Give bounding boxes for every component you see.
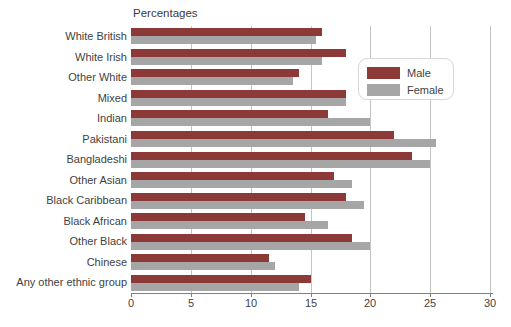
category-label: Pakistani — [0, 129, 127, 150]
bar-female-9 — [131, 221, 328, 229]
tick-label: 15 — [296, 297, 326, 309]
bar-female-1 — [131, 57, 322, 65]
tick-label: 20 — [355, 297, 385, 309]
bar-female-2 — [131, 77, 293, 85]
legend-item-male: Male — [367, 65, 453, 80]
bar-male-9 — [131, 213, 305, 221]
x-axis-line — [131, 293, 493, 294]
legend-item-female: Female — [367, 82, 453, 97]
category-label: Bangladeshi — [0, 149, 127, 170]
category-label: Other White — [0, 67, 127, 88]
bar-female-6 — [131, 160, 430, 168]
bar-chart: Percentages White BritishWhite IrishOthe… — [0, 0, 511, 327]
bar-male-3 — [131, 90, 346, 98]
tick-label: 30 — [475, 297, 505, 309]
bar-male-7 — [131, 172, 334, 180]
legend-label-female: Female — [407, 84, 444, 96]
male-series-swatch — [367, 67, 400, 79]
bar-male-11 — [131, 254, 269, 262]
category-label: Any other ethnic group — [0, 272, 127, 293]
bar-male-8 — [131, 193, 346, 201]
category-label: Other Black — [0, 231, 127, 252]
bar-male-5 — [131, 131, 394, 139]
legend-label-male: Male — [407, 67, 431, 79]
legend: Male Female — [358, 58, 454, 100]
gridline — [490, 26, 491, 293]
bar-female-12 — [131, 283, 299, 291]
bar-female-7 — [131, 180, 352, 188]
bar-male-6 — [131, 152, 412, 160]
tick-label: 5 — [176, 297, 206, 309]
bar-female-5 — [131, 139, 436, 147]
bar-female-8 — [131, 201, 364, 209]
category-label: White Irish — [0, 47, 127, 68]
bar-female-11 — [131, 262, 275, 270]
bar-male-1 — [131, 49, 346, 57]
tick-label: 25 — [415, 297, 445, 309]
category-label: Indian — [0, 108, 127, 129]
bar-female-4 — [131, 118, 370, 126]
bar-male-12 — [131, 275, 311, 283]
female-series-swatch — [367, 84, 400, 96]
bar-female-0 — [131, 36, 316, 44]
category-label: Other Asian — [0, 170, 127, 191]
chart-title: Percentages — [133, 7, 198, 19]
bar-male-4 — [131, 110, 328, 118]
bar-male-0 — [131, 28, 322, 36]
bar-male-10 — [131, 234, 352, 242]
category-label: White British — [0, 26, 127, 47]
tick-label: 10 — [236, 297, 266, 309]
category-label: Black African — [0, 211, 127, 232]
category-label: Chinese — [0, 252, 127, 273]
category-label: Mixed — [0, 88, 127, 109]
category-label: Black Caribbean — [0, 190, 127, 211]
bar-female-10 — [131, 242, 370, 250]
tick-label: 0 — [116, 297, 146, 309]
bar-female-3 — [131, 98, 346, 106]
bar-male-2 — [131, 69, 299, 77]
